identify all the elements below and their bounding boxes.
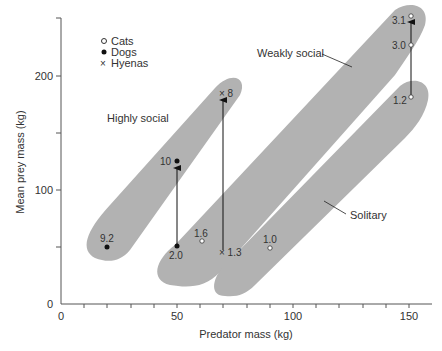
point-label: 1.0 (263, 234, 277, 245)
y-axis: 200 100 0 Mean prey mass (kg) (14, 18, 61, 310)
label-solitary: Solitary (350, 209, 387, 221)
y-tick-0: 0 (47, 298, 53, 310)
cross-icon: × (100, 58, 106, 69)
point-label: 10 (160, 156, 172, 167)
point-label: 9.2 (100, 233, 114, 244)
open-circle-icon (102, 39, 107, 44)
leader-line-weakly (322, 54, 352, 67)
x-axis-label: Predator mass (kg) (199, 328, 293, 340)
y-tick-200: 200 (35, 70, 53, 82)
label-weakly-social: Weakly social (257, 47, 324, 59)
y-axis-label: Mean prey mass (kg) (14, 110, 26, 213)
y-tick-100: 100 (35, 184, 53, 196)
point-label: 1.6 (194, 228, 208, 239)
data-point (200, 239, 204, 243)
point-label: × 8 (219, 88, 234, 99)
x-tick-0: 0 (58, 310, 64, 322)
filled-circle-icon (102, 50, 107, 55)
data-point (268, 246, 272, 250)
legend: Cats Dogs × Hyenas (100, 35, 149, 69)
x-axis: 0 50 100 150 Predator mass (kg) (58, 304, 432, 340)
x-tick-100: 100 (284, 310, 302, 322)
point-label: × 1.3 (219, 247, 242, 258)
x-tick-150: 150 (400, 310, 418, 322)
data-point (409, 95, 413, 99)
data-point (175, 159, 180, 164)
point-label: 2.0 (169, 250, 183, 261)
point-label: 3.1 (392, 15, 406, 26)
point-label: 1.2 (393, 95, 407, 106)
label-highly-social: Highly social (107, 112, 169, 124)
chart: 200 100 0 Mean prey mass (kg) 0 50 100 1… (0, 0, 442, 351)
x-tick-50: 50 (171, 310, 183, 322)
data-point (409, 43, 413, 47)
data-point (105, 245, 110, 250)
data-point (175, 244, 180, 249)
data-point (409, 14, 413, 18)
legend-hyenas: Hyenas (111, 57, 149, 69)
point-label: 3.0 (392, 40, 406, 51)
